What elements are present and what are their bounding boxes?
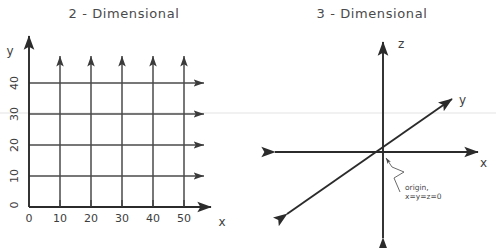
z-axis-label: z (398, 37, 404, 51)
y-tick-label: 30 (8, 107, 21, 121)
x-axis-label: x (218, 215, 225, 229)
x-tick-label: 50 (177, 212, 191, 225)
y-axis-label: y (459, 93, 466, 107)
x-tick-label: 30 (115, 212, 129, 225)
horizontal-gridline-group (29, 83, 204, 176)
vertical-gridline-group (60, 56, 184, 207)
y-tick-label: 0 (8, 202, 21, 209)
figure-canvas: 2 - Dimensional (0, 0, 496, 248)
x-tick-label: 0 (26, 212, 33, 225)
origin-leader-arrow (386, 158, 404, 192)
origin-annotation-line-1: origin, (405, 183, 429, 192)
x-tick-label: 20 (84, 212, 98, 225)
panel-two-dimensional: 2 - Dimensional (0, 0, 248, 248)
x-tick-label: 10 (53, 212, 67, 225)
origin-annotation-line-2: x=y=z=0 (405, 192, 442, 201)
origin-callout: origin, x=y=z=0 (386, 158, 442, 201)
two-dimensional-plot: 0 10 20 30 40 50 0 10 20 30 40 y x (0, 0, 248, 248)
y-tick-label: 20 (8, 138, 21, 152)
y-axis-label: y (6, 44, 13, 58)
y-tick-label: 10 (8, 169, 21, 183)
panel-three-dimensional: 3 - Dimensional z y x (248, 0, 496, 248)
three-dimensional-plot: z y x origin, x=y=z=0 (248, 0, 496, 248)
y-tick-label: 40 (8, 76, 21, 90)
x-axis-label: x (480, 156, 487, 170)
x-tick-label: 40 (146, 212, 160, 225)
x-tick-marks (60, 200, 184, 207)
